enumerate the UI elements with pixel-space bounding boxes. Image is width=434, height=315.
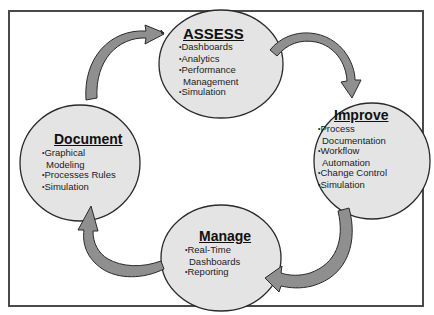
node-assess-items: Dashboards Analytics Performance Managem… bbox=[179, 42, 274, 99]
arrow-assess-to-improve bbox=[270, 33, 361, 98]
node-assess-title: ASSESS bbox=[179, 26, 274, 41]
node-assess: ASSESS Dashboards Analytics Performance … bbox=[179, 26, 274, 99]
list-item: Reporting bbox=[185, 267, 265, 279]
arrow-manage-to-document bbox=[78, 206, 164, 277]
node-improve: Improve Process Documentation Workflow A… bbox=[318, 108, 414, 192]
node-manage-items: Real-Time Dashboards Reporting bbox=[185, 245, 265, 279]
list-item: Graphical Modeling bbox=[42, 148, 98, 170]
arrow-document-to-assess bbox=[86, 25, 164, 100]
list-item: Workflow Automation bbox=[318, 146, 386, 168]
node-document: Document Graphical Modeling Processes Ru… bbox=[42, 132, 132, 193]
list-item: Simulation bbox=[179, 87, 274, 99]
list-item: Performance Management bbox=[179, 65, 253, 87]
list-item: Simulation bbox=[318, 180, 414, 192]
list-item: Simulation bbox=[42, 182, 132, 194]
node-improve-title: Improve bbox=[318, 108, 414, 123]
node-manage-title: Manage bbox=[185, 229, 265, 244]
node-document-title: Document bbox=[42, 132, 132, 147]
list-item: Dashboards bbox=[179, 42, 274, 54]
node-improve-items: Process Documentation Workflow Automatio… bbox=[318, 124, 414, 192]
node-document-items: Graphical Modeling Processes Rules Simul… bbox=[42, 148, 132, 193]
list-item: Real-Time Dashboards bbox=[185, 245, 245, 267]
list-item: Process Documentation bbox=[318, 124, 394, 146]
node-manage: Manage Real-Time Dashboards Reporting bbox=[185, 229, 265, 279]
